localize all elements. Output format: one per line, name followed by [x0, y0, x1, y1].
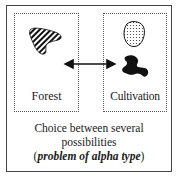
- caption-line-3: (problem of alpha type): [6, 149, 172, 163]
- caption-emphasis: problem of alpha type: [37, 150, 140, 162]
- caption-line-1: Choice between several: [6, 121, 172, 135]
- caption-line-2: possibilities: [6, 135, 172, 149]
- forest-hatched-shape-icon: [29, 28, 61, 54]
- caption-paren-close: ): [141, 150, 145, 162]
- cultivation-solid-shape-icon: [122, 55, 148, 76]
- diagram-caption: Choice between several possibilities (pr…: [6, 121, 172, 163]
- cultivation-dotted-shape-icon: [124, 22, 144, 47]
